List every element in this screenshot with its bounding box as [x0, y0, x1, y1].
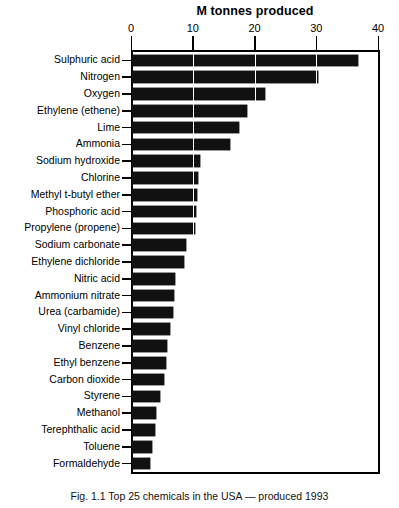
x-axis-tick [316, 36, 318, 50]
x-axis-tick [254, 36, 256, 50]
category-label: Nitric acid [74, 272, 120, 284]
y-axis-tick [122, 144, 131, 146]
x-axis-tick [192, 36, 194, 50]
category-label: Ammonia [76, 137, 120, 149]
x-axis-tick-label: 40 [372, 22, 384, 34]
y-axis-tick [122, 160, 131, 162]
category-label: Formaldehyde [53, 457, 120, 469]
y-axis-tick [122, 194, 131, 196]
bar [132, 122, 239, 134]
bar [132, 340, 167, 352]
category-label: Sulphuric acid [54, 53, 120, 65]
bar [132, 391, 160, 403]
category-label: Nitrogen [80, 70, 120, 82]
bar [132, 458, 150, 470]
bar [132, 189, 197, 201]
y-axis-tick [122, 396, 131, 398]
category-label: Ammonium nitrate [35, 289, 120, 301]
category-label: Vinyl chloride [58, 322, 120, 334]
x-axis-tick-label: 30 [310, 22, 322, 34]
bar [132, 223, 195, 235]
bar [132, 139, 230, 151]
category-label: Ethyl benzene [53, 356, 120, 368]
y-axis-tick [122, 228, 131, 230]
y-axis-tick [122, 463, 131, 465]
category-label: Methyl t-butyl ether [31, 188, 120, 200]
y-axis-tick [122, 76, 131, 78]
x-axis-tick-label: 0 [128, 22, 134, 34]
bar [132, 441, 152, 453]
bar [132, 55, 358, 67]
y-axis-tick [122, 278, 131, 280]
x-axis-tick-label: 20 [248, 22, 260, 34]
category-label: Styrene [84, 389, 120, 401]
axis-bottom-line [131, 472, 380, 474]
y-axis-tick [122, 110, 131, 112]
category-label: Ethylene dichloride [31, 255, 120, 267]
bar [132, 407, 156, 419]
y-axis-tick [122, 295, 131, 297]
y-axis-tick [122, 328, 131, 330]
category-label: Chlorine [81, 171, 120, 183]
chart-title: M tonnes produced [131, 4, 379, 18]
gridline [193, 52, 194, 472]
category-label: Benzene [79, 339, 120, 351]
x-axis-tick [131, 36, 133, 50]
bar [132, 105, 247, 117]
category-label: Lime [97, 121, 120, 133]
chart-figure: M tonnes produced 010203040 Fig. 1.1 Top… [0, 0, 399, 508]
category-label: Phosphoric acid [45, 205, 120, 217]
bar [132, 290, 174, 302]
y-axis-tick [122, 244, 131, 246]
bar [132, 256, 184, 268]
y-axis-tick [122, 60, 131, 62]
x-axis-tick-label: 10 [187, 22, 199, 34]
gridline [255, 52, 256, 472]
y-axis-tick [122, 177, 131, 179]
bar [132, 206, 196, 218]
category-label: Sodium hydroxide [36, 154, 120, 166]
y-axis-tick [122, 312, 131, 314]
category-label: Methanol [77, 406, 120, 418]
bar [132, 155, 200, 167]
bar [132, 307, 173, 319]
y-axis-tick [122, 211, 131, 213]
category-label: Propylene (propene) [24, 221, 120, 233]
category-label: Terephthalic acid [41, 423, 120, 435]
x-axis-tick [378, 36, 380, 50]
category-label: Sodium carbonate [35, 238, 120, 250]
category-label: Urea (carbamide) [38, 305, 120, 317]
category-label: Oxygen [84, 87, 120, 99]
bar [132, 71, 318, 83]
category-label: Carbon dioxide [49, 373, 120, 385]
bar [132, 357, 166, 369]
y-axis-tick [122, 127, 131, 129]
y-axis-tick [122, 261, 131, 263]
bar [132, 273, 175, 285]
category-label: Ethylene (ethene) [37, 104, 120, 116]
y-axis-tick [122, 345, 131, 347]
bar [132, 239, 186, 251]
bar [132, 88, 265, 100]
bar [132, 424, 155, 436]
category-label: Toluene [83, 440, 120, 452]
bar [132, 172, 198, 184]
bar [132, 323, 170, 335]
y-axis-tick [122, 93, 131, 95]
figure-caption: Fig. 1.1 Top 25 chemicals in the USA — p… [0, 490, 399, 502]
y-axis-tick [122, 412, 131, 414]
y-axis-tick [122, 429, 131, 431]
gridline [316, 52, 317, 472]
y-axis-tick [122, 379, 131, 381]
y-axis-tick [122, 362, 131, 364]
y-axis-tick [122, 446, 131, 448]
bar [132, 374, 164, 386]
